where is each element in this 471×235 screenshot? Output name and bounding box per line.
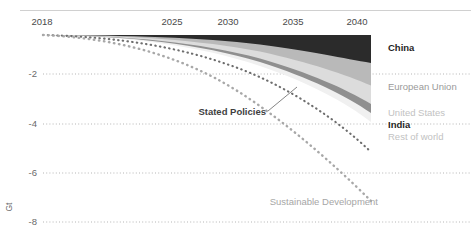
x-tick-2030: 2030: [217, 16, 238, 27]
annotation-sustainable-development: Sustainable Development: [270, 196, 379, 207]
x-tick-2035: 2035: [282, 16, 303, 27]
stated-policies-leader-line: [268, 87, 297, 111]
legend-item-european-union: European Union: [388, 81, 457, 92]
chart-canvas: Stated Policies Sustainable Development …: [0, 0, 471, 235]
y-tick--2: -2: [29, 68, 37, 79]
legend-item-united-states: United States: [388, 107, 445, 118]
x-tick-2018: 2018: [31, 16, 52, 27]
legend-item-rest-of-world: Rest of world: [388, 131, 443, 142]
y-tick--6: -6: [29, 167, 37, 178]
annotation-stated-policies: Stated Policies: [198, 106, 266, 117]
x-axis-labels: 2018 2025 2030 2035 2040: [31, 16, 367, 27]
y-tick--4: -4: [29, 118, 37, 129]
legend-item-india: India: [388, 119, 411, 130]
y-tick--8: -8: [29, 216, 37, 227]
x-tick-2040: 2040: [346, 16, 367, 27]
legend: China European Union United States India…: [388, 42, 457, 142]
x-tick-2025: 2025: [161, 16, 182, 27]
y-axis-labels: -2 -4 -6 -8: [29, 68, 37, 227]
gridlines: [43, 74, 471, 222]
legend-item-china: China: [388, 42, 415, 53]
emissions-area-chart: Stated Policies Sustainable Development …: [0, 0, 471, 235]
y-axis-unit-label: Gt: [4, 202, 14, 212]
